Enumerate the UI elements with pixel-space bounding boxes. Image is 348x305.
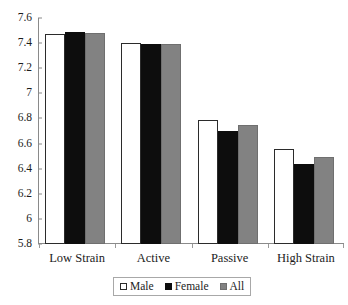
bar-all-low-strain[interactable] <box>85 33 105 244</box>
bar-female-active[interactable] <box>141 44 161 244</box>
plot-area <box>39 18 344 244</box>
bar-group <box>121 18 181 244</box>
legend-swatch-icon <box>120 283 127 290</box>
legend-label: Female <box>175 281 209 293</box>
y-axis-tick-label: 6.8 <box>18 113 32 125</box>
legend-label: Male <box>130 281 154 293</box>
y-axis-tick-label: 6.6 <box>18 138 32 150</box>
bar-male-passive[interactable] <box>198 120 218 244</box>
x-axis-category-label: High Strain <box>277 249 335 267</box>
y-axis-tick-label: 7 <box>26 88 32 100</box>
x-axis-tick-mark <box>39 244 40 248</box>
chart-legend: MaleFemaleAll <box>113 277 251 296</box>
y-axis-tick-label: 6 <box>26 213 32 225</box>
x-axis-category-label: Passive <box>211 249 249 267</box>
x-axis-tick-mark <box>268 244 269 248</box>
bar-group <box>198 18 258 244</box>
bar-female-high-strain[interactable] <box>294 164 314 244</box>
y-axis-tick-label: 5.8 <box>18 238 32 250</box>
bar-female-passive[interactable] <box>218 131 238 244</box>
bar-male-low-strain[interactable] <box>45 34 65 244</box>
bar-female-low-strain[interactable] <box>65 32 85 244</box>
y-axis-tick-label: 6.4 <box>18 163 32 175</box>
legend-swatch-icon <box>165 283 172 290</box>
legend-entry-male[interactable]: Male <box>120 281 154 293</box>
y-axis-tick-label: 6.2 <box>18 188 32 200</box>
bar-chart: 7.67.47.276.86.66.46.265.8 Low StrainAct… <box>0 0 348 305</box>
bar-male-high-strain[interactable] <box>274 149 294 244</box>
y-axis-tick-label: 7.4 <box>18 37 32 49</box>
x-axis-tick-mark <box>192 244 193 248</box>
x-axis-tick-mark <box>115 244 116 248</box>
x-axis-labels: Low StrainActivePassiveHigh Strain <box>39 249 344 271</box>
bar-all-passive[interactable] <box>238 125 258 244</box>
legend-swatch-icon <box>220 283 227 290</box>
bar-all-high-strain[interactable] <box>314 157 334 244</box>
bar-all-active[interactable] <box>161 44 181 244</box>
legend-label: All <box>230 281 245 293</box>
y-axis: 7.67.47.276.86.66.46.265.8 <box>0 0 40 305</box>
bar-male-active[interactable] <box>121 43 141 244</box>
legend-entry-all[interactable]: All <box>220 281 245 293</box>
legend-entry-female[interactable]: Female <box>165 281 209 293</box>
bar-group <box>274 18 334 244</box>
y-axis-tick-label: 7.6 <box>18 12 32 24</box>
y-axis-tick-label: 7.2 <box>18 62 32 74</box>
x-axis-category-label: Active <box>137 249 170 267</box>
bar-group <box>45 18 105 244</box>
x-axis-category-label: Low Strain <box>49 249 105 267</box>
x-axis-tick-mark <box>343 244 344 248</box>
